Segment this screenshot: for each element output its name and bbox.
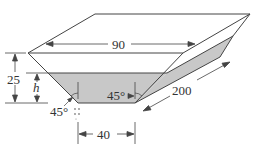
label-angle-left: 45° [50, 104, 68, 119]
water-drip-icon [74, 108, 80, 120]
label-water-height: h [33, 80, 40, 95]
label-bottom-width: 40 [97, 127, 110, 142]
label-length: 200 [172, 83, 192, 98]
label-angle-right: 45° [107, 88, 125, 103]
label-total-height: 25 [7, 72, 20, 87]
label-top-width: 90 [112, 37, 125, 52]
trough-diagram: 90 25 h 40 200 [0, 0, 255, 152]
